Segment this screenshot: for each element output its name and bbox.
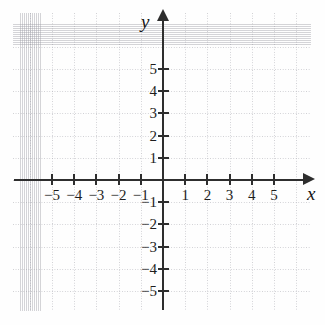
- y-axis-tick: [158, 290, 169, 292]
- y-tick-label: −1: [141, 195, 157, 210]
- x-axis-label: x: [307, 184, 315, 203]
- x-tick-label: −2: [111, 188, 127, 203]
- y-tick-label: 5: [150, 62, 158, 77]
- y-tick-label: −2: [141, 217, 157, 232]
- y-axis-tick: [158, 157, 169, 159]
- y-axis-tick: [158, 246, 169, 248]
- grid-line-vertical: [274, 13, 275, 311]
- x-tick-label: 2: [204, 188, 212, 203]
- y-axis-tick: [158, 90, 169, 92]
- x-axis-tick: [51, 174, 53, 185]
- y-tick-label: 4: [150, 84, 158, 99]
- y-axis-line: [162, 18, 164, 310]
- grid-line-vertical: [30, 13, 31, 311]
- x-axis-tick: [118, 174, 120, 185]
- x-axis-line: [14, 179, 305, 181]
- x-axis-tick: [229, 174, 231, 185]
- y-axis-tick: [158, 135, 169, 137]
- x-axis-tick: [95, 174, 97, 185]
- x-axis-tick: [273, 174, 275, 185]
- grid-line-vertical: [119, 13, 120, 311]
- y-axis-label: y: [141, 12, 149, 31]
- grid-line-vertical: [230, 13, 231, 311]
- x-axis-tick: [184, 174, 186, 185]
- grid-line-vertical: [252, 13, 253, 311]
- grid-line-vertical: [185, 13, 186, 311]
- x-tick-label: 1: [181, 188, 189, 203]
- x-tick-label: 4: [248, 188, 256, 203]
- x-tick-label: 3: [226, 188, 234, 203]
- x-tick-label: −3: [88, 188, 104, 203]
- y-tick-label: −5: [141, 284, 157, 299]
- y-tick-label: 1: [150, 150, 158, 165]
- x-tick-label: −5: [44, 188, 60, 203]
- x-axis-tick: [251, 174, 253, 185]
- y-axis-tick: [158, 223, 169, 225]
- y-tick-label: 3: [150, 106, 158, 121]
- coordinate-plane-figure: −5−4−3−2−112345 54321−1−2−3−4−5 y x: [0, 0, 325, 325]
- y-axis-tick: [158, 112, 169, 114]
- grid-line-vertical: [296, 13, 297, 311]
- y-axis-tick: [158, 201, 169, 203]
- grid-line-vertical: [74, 13, 75, 311]
- y-tick-label: −3: [141, 239, 157, 254]
- x-axis-tick: [73, 174, 75, 185]
- grid-line-vertical: [96, 13, 97, 311]
- x-tick-label: −4: [66, 188, 82, 203]
- x-axis-tick: [140, 174, 142, 185]
- y-axis-tick: [158, 268, 169, 270]
- y-tick-label: 2: [150, 128, 158, 143]
- grid-line-vertical: [207, 13, 208, 311]
- y-tick-label: −4: [141, 261, 157, 276]
- grid-line-vertical: [52, 13, 53, 311]
- y-axis-arrowhead-icon: [157, 9, 169, 21]
- x-axis-tick: [206, 174, 208, 185]
- y-axis-tick: [158, 68, 169, 70]
- x-tick-label: 5: [270, 188, 278, 203]
